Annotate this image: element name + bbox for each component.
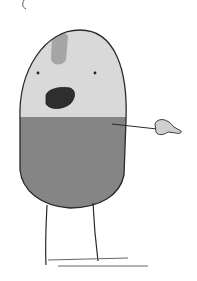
right-eye <box>94 72 97 75</box>
head-region <box>0 0 197 120</box>
left-eye <box>37 72 40 75</box>
right-leg <box>93 203 98 261</box>
left-leg <box>46 205 47 265</box>
pointing-hand <box>155 120 181 135</box>
character-drawing <box>0 0 197 281</box>
stray-mark <box>23 0 26 9</box>
character-body <box>0 0 197 217</box>
ground-line <box>48 258 148 266</box>
illustration <box>0 0 197 281</box>
